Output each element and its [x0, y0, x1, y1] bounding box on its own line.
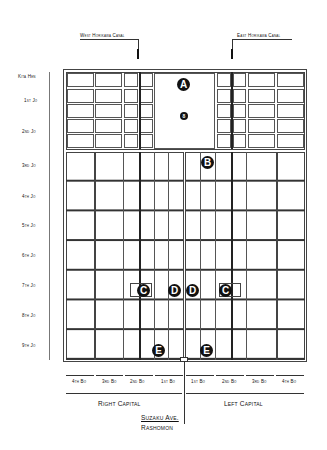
city-block — [95, 134, 122, 148]
city-block — [248, 89, 275, 103]
city-block — [67, 134, 94, 148]
city-block — [217, 119, 231, 133]
col-label-right-3rd-bo: 3rd Bo — [102, 379, 117, 384]
rashomon-label: Rashomon — [141, 424, 173, 431]
city-block — [248, 104, 275, 118]
row-label-1st-jo: 1st Jo — [24, 98, 37, 103]
city-block — [95, 73, 122, 87]
marker-d-east: D — [186, 284, 199, 297]
east-horikawa-canal-upper — [231, 72, 233, 149]
marker-c-west: C — [137, 284, 150, 297]
city-block — [233, 104, 246, 118]
row-label-9th-jo: 9th Jo — [22, 343, 36, 348]
city-block — [233, 89, 246, 103]
west-canal-underline — [80, 39, 138, 40]
col-tick — [66, 375, 94, 376]
city-block — [95, 104, 122, 118]
street-v — [200, 152, 201, 360]
col-tick — [96, 375, 123, 376]
left-capital-label: Left Capital — [224, 400, 263, 407]
col-tick — [186, 375, 214, 376]
city-block — [277, 134, 304, 148]
col-tick — [125, 375, 153, 376]
city-block — [217, 89, 231, 103]
city-block — [233, 73, 246, 87]
marker-e-west: E — [152, 344, 165, 357]
city-block — [67, 119, 94, 133]
city-block — [140, 89, 153, 103]
city-block — [124, 104, 138, 118]
city-block — [124, 119, 138, 133]
city-block — [95, 119, 122, 133]
right-capital-rule — [66, 393, 182, 394]
suzaku-avenue-label: Suzaku Ave. — [141, 414, 179, 421]
suzaku-leader-line — [184, 362, 185, 424]
city-block — [233, 119, 246, 133]
east-canal-label: East Horikawa Canal — [237, 33, 280, 38]
city-block — [124, 73, 138, 87]
city-block — [124, 89, 138, 103]
street-v — [154, 152, 155, 360]
col-label-right-1st-bo: 1st Bo — [161, 379, 175, 384]
suzaku-avenue — [183, 152, 186, 360]
street-v — [246, 152, 247, 360]
marker-d-west: D — [168, 284, 181, 297]
marker-a: A — [177, 78, 190, 91]
city-block — [67, 104, 94, 118]
city-block — [124, 134, 138, 148]
street-v — [123, 152, 124, 360]
street-v — [276, 152, 278, 360]
row-label-8th-jo: 8th Jo — [22, 313, 36, 318]
west-canal-marker — [137, 49, 139, 59]
city-block — [140, 73, 153, 87]
row-label-2nd-jo: 2nd Jo — [22, 129, 36, 134]
west-horikawa-canal-line — [139, 152, 141, 360]
marker-c-east: C — [219, 284, 232, 297]
col-label-right-4th-bo: 4th Bo — [72, 379, 86, 384]
col-tick — [155, 375, 183, 376]
west-horikawa-canal-upper — [139, 72, 141, 149]
street-v — [168, 152, 169, 360]
left-capital-rule — [186, 393, 304, 394]
city-block — [140, 104, 153, 118]
row-axis-line — [49, 72, 50, 360]
right-capital-label: Right Capital — [98, 400, 141, 407]
street-v — [215, 152, 216, 360]
city-block — [248, 73, 275, 87]
col-label-right-2nd-bo: 2nd Bo — [130, 379, 145, 384]
west-canal-label: West Horikawa Canal — [80, 33, 125, 38]
city-block — [67, 89, 94, 103]
east-canal-leader — [232, 39, 233, 49]
city-block — [277, 89, 304, 103]
east-horikawa-canal-line — [231, 152, 233, 360]
city-block — [95, 89, 122, 103]
city-block — [277, 119, 304, 133]
row-label-kita-hen: Kita Hen — [18, 74, 36, 79]
row-label-7th-jo: 7th Jo — [22, 283, 36, 288]
col-tick — [216, 375, 244, 376]
city-block — [248, 119, 275, 133]
west-canal-leader — [138, 39, 139, 49]
city-block — [217, 73, 231, 87]
city-block — [67, 73, 94, 87]
col-tick — [276, 375, 304, 376]
city-block — [233, 134, 246, 148]
col-label-left-4th-bo: 4th Bo — [282, 379, 296, 384]
city-block — [277, 73, 304, 87]
east-canal-underline — [232, 39, 292, 40]
city-block — [140, 119, 153, 133]
east-canal-marker — [231, 49, 233, 59]
row-label-4th-jo: 4th Jo — [22, 194, 36, 199]
city-block — [140, 134, 153, 148]
street-v — [94, 152, 96, 360]
marker-b: B — [201, 156, 214, 169]
row-label-3rd-jo: 3rd Jo — [22, 163, 36, 168]
row-label-6th-jo: 6th Jo — [22, 253, 36, 258]
city-block — [217, 104, 231, 118]
city-block — [248, 134, 275, 148]
col-label-left-3rd-bo: 3rd Bo — [252, 379, 267, 384]
city-block — [277, 104, 304, 118]
marker-palace-small: 8 — [180, 112, 188, 120]
col-tick — [246, 375, 274, 376]
row-label-5th-jo: 5th Jo — [22, 223, 36, 228]
